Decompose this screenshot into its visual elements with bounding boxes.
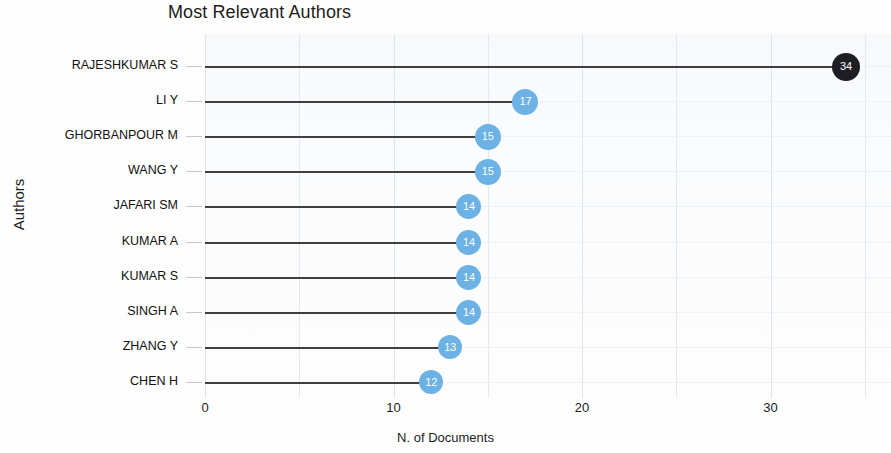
x-axis-tick-label: 10	[374, 400, 414, 415]
lollipop-stem	[205, 136, 488, 138]
data-point-bubble[interactable]: 17	[512, 89, 538, 115]
author-name-label: LI Y	[156, 94, 178, 107]
axis-row-label: WANG Y	[0, 164, 178, 178]
gridline-vertical	[394, 34, 395, 398]
gridline-vertical	[771, 34, 772, 398]
axis-tick-connector	[186, 312, 202, 313]
author-name-label: ZHANG Y	[123, 340, 178, 353]
author-name-label: KUMAR A	[122, 235, 178, 248]
lollipop-stem	[205, 101, 525, 103]
axis-row-label: SINGH A	[0, 305, 178, 319]
lollipop-stem	[205, 242, 469, 244]
axis-tick-connector	[186, 242, 202, 243]
data-point-bubble[interactable]: 13	[438, 335, 462, 359]
lollipop-stem	[205, 206, 469, 208]
chart-container: Most Relevant Authors Authors RAJESHKUMA…	[0, 0, 891, 453]
gridline-vertical	[676, 34, 677, 398]
gridline-vertical	[865, 34, 866, 398]
gridline-vertical	[582, 34, 583, 398]
author-name-label: RAJESHKUMAR S	[72, 59, 178, 72]
x-axis-tick-label: 30	[751, 400, 791, 415]
author-name-label: JAFARI SM	[113, 199, 178, 212]
lollipop-stem	[205, 312, 469, 314]
data-point-bubble[interactable]: 14	[456, 230, 481, 255]
data-point-bubble[interactable]: 34	[832, 53, 860, 81]
x-axis-title: N. of Documents	[0, 430, 891, 445]
data-point-bubble[interactable]: 15	[475, 124, 501, 150]
axis-tick-connector	[186, 136, 202, 137]
axis-row-label: LI Y	[0, 94, 178, 108]
gridline-vertical	[488, 34, 489, 398]
axis-row-label: JAFARI SM	[0, 199, 178, 213]
axis-row-label: RAJESHKUMAR S	[0, 59, 178, 73]
lollipop-stem	[205, 171, 488, 173]
axis-row-label: ZHANG Y	[0, 340, 178, 354]
data-point-bubble[interactable]: 12	[419, 370, 443, 394]
lollipop-stem	[205, 347, 450, 349]
data-point-bubble[interactable]: 14	[456, 265, 481, 290]
x-axis-tick-label: 20	[562, 400, 602, 415]
axis-tick-connector	[186, 347, 202, 348]
x-axis-tick-label: 0	[185, 400, 225, 415]
plot-area: RAJESHKUMAR S34LI Y17GHORBANPOUR M15WANG…	[0, 0, 891, 453]
lollipop-stem	[205, 66, 846, 68]
axis-row-label: KUMAR S	[0, 270, 178, 284]
axis-row-label: CHEN H	[0, 375, 178, 389]
data-point-bubble[interactable]: 14	[456, 194, 481, 219]
lollipop-stem	[205, 277, 469, 279]
axis-row-label: KUMAR A	[0, 235, 178, 249]
axis-tick-connector	[186, 382, 202, 383]
author-name-label: WANG Y	[128, 164, 178, 177]
axis-tick-connector	[186, 277, 202, 278]
lollipop-stem	[205, 382, 431, 384]
gridline-vertical	[299, 34, 300, 398]
gridline-vertical	[205, 34, 206, 398]
data-point-bubble[interactable]: 14	[456, 300, 481, 325]
axis-tick-connector	[186, 66, 202, 67]
author-name-label: CHEN H	[130, 375, 178, 388]
author-name-label: GHORBANPOUR M	[65, 129, 178, 142]
axis-tick-connector	[186, 171, 202, 172]
author-name-label: KUMAR S	[121, 270, 178, 283]
data-point-bubble[interactable]: 15	[475, 159, 501, 185]
axis-row-label: GHORBANPOUR M	[0, 129, 178, 143]
axis-tick-connector	[186, 206, 202, 207]
axis-tick-connector	[186, 101, 202, 102]
author-name-label: SINGH A	[127, 305, 178, 318]
